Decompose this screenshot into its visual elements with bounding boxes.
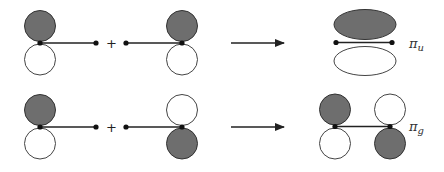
open-lobe xyxy=(167,95,198,126)
p-orbital-atom-b xyxy=(123,11,197,76)
row-pi-u: + πu xyxy=(25,10,425,76)
nucleus-dot xyxy=(387,124,392,129)
shaded-lobe xyxy=(375,128,406,159)
nucleus-dot xyxy=(389,40,394,45)
shaded-lobe xyxy=(334,10,396,40)
shaded-lobe xyxy=(167,11,198,42)
label-symbol: π xyxy=(408,119,418,134)
bond-end-dot xyxy=(123,40,128,45)
row-pi-g: + πg xyxy=(25,94,424,159)
nucleus-dot xyxy=(332,124,337,129)
label-subscript: g xyxy=(418,125,424,136)
pi-u-label: πu xyxy=(408,36,424,53)
label-symbol: π xyxy=(408,36,418,51)
pi-u-orbital xyxy=(333,10,396,76)
plus-operator: + xyxy=(106,36,117,51)
label-subscript: u xyxy=(418,42,424,53)
molecular-orbital-diagram: + πu + xyxy=(0,0,444,172)
bond-end-dot xyxy=(123,124,128,129)
bond-end-dot xyxy=(93,124,98,129)
p-orbital-atom-a xyxy=(25,11,99,76)
p-orbital-atom-b xyxy=(123,95,197,160)
open-lobe xyxy=(167,44,198,75)
shaded-lobe xyxy=(25,95,56,126)
shaded-lobe xyxy=(25,11,56,42)
open-lobe xyxy=(375,94,406,125)
open-lobe xyxy=(25,128,56,159)
nucleus-dot xyxy=(179,124,184,129)
bond-end-dot xyxy=(93,40,98,45)
pi-g-label: πg xyxy=(408,119,424,136)
shaded-lobe xyxy=(320,94,351,125)
nucleus-dot xyxy=(37,124,42,129)
nucleus-dot xyxy=(179,40,184,45)
plus-operator: + xyxy=(106,120,117,135)
open-lobe xyxy=(25,44,56,75)
shaded-lobe xyxy=(167,128,198,159)
pi-g-orbital xyxy=(320,94,406,159)
open-lobe xyxy=(334,47,396,76)
p-orbital-atom-a xyxy=(25,95,99,160)
nucleus-dot xyxy=(37,40,42,45)
nucleus-dot xyxy=(333,40,338,45)
open-lobe xyxy=(320,128,351,159)
